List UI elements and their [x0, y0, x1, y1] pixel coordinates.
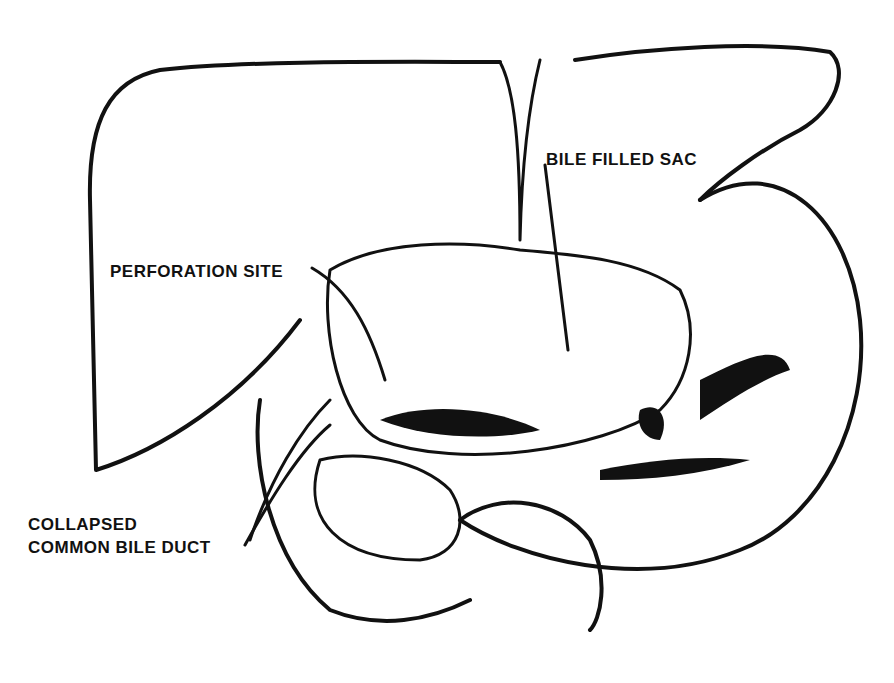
label-common-bile-duct: COMMON BILE DUCT: [28, 538, 211, 558]
pointer-bile-sac: [545, 165, 568, 350]
shading-3: [600, 458, 750, 480]
falciform-ligament: [500, 60, 540, 240]
label-bile-filled-sac: BILE FILLED SAC: [546, 150, 697, 170]
shading-4: [639, 407, 664, 440]
intestine-loop: [315, 456, 460, 560]
anatomy-drawing: [0, 0, 894, 683]
shading-1: [380, 409, 540, 436]
illustration-canvas: BILE FILLED SAC PERFORATION SITE COLLAPS…: [0, 0, 894, 683]
shading-2: [700, 355, 790, 420]
pointer-perforation: [312, 268, 385, 380]
label-collapsed: COLLAPSED: [28, 515, 137, 535]
liver-outline: [90, 46, 839, 470]
label-perforation-site: PERFORATION SITE: [110, 262, 283, 282]
